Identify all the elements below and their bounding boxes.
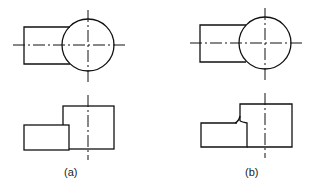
- top-view-a: [13, 10, 125, 82]
- fillet-runout-b: [235, 116, 240, 123]
- cylinder-profile-b: [240, 104, 292, 147]
- panel-label-a: (a): [64, 166, 77, 178]
- top-view-b: [190, 8, 302, 80]
- block-profile-b: [201, 121, 247, 147]
- panel-a: (a): [13, 10, 125, 178]
- panel-b: (b): [190, 8, 302, 178]
- drawing-canvas: (a) (b): [0, 0, 316, 186]
- block-profile-a: [24, 125, 69, 150]
- front-view-b: [201, 93, 292, 158]
- panel-label-b: (b): [245, 166, 258, 178]
- front-view-a: [24, 95, 114, 160]
